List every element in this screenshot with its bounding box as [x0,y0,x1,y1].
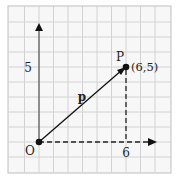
point-coords-label: (6,5) [131,60,158,74]
vector-diagram: 5 6 O P (6,5) p [0,0,184,178]
point-label: P [116,50,124,64]
origin-point [36,139,43,146]
origin-label: O [25,144,35,158]
vector-label: p [78,90,86,104]
x-tick-label: 6 [122,146,130,160]
y-tick-label: 5 [24,61,32,75]
point-p [123,64,130,71]
